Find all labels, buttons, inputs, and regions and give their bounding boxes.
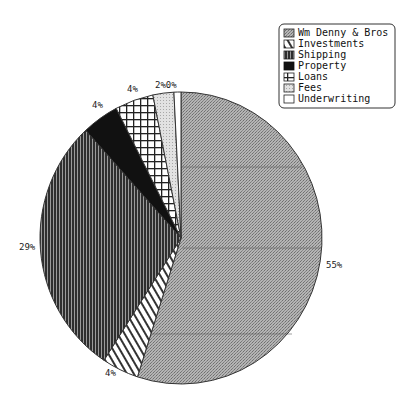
svg-text:Investments: Investments <box>298 38 364 49</box>
legend-item-property: Property <box>284 60 346 71</box>
legend-item-loans: Loans <box>284 71 328 82</box>
label-property: 4% <box>92 100 103 110</box>
legend-swatch <box>284 62 294 70</box>
legend-swatch <box>284 73 294 81</box>
svg-text:Loans: Loans <box>298 71 328 82</box>
label-investments: 4% <box>105 368 116 378</box>
svg-text:Underwriting: Underwriting <box>298 93 370 104</box>
legend-item-wm-denny: Wm Denny & Bros <box>284 27 388 38</box>
pie-chart: 55% 4% 29% 4% 4% 2%0% Wm Denny & Bros In… <box>0 0 414 398</box>
svg-text:Shipping: Shipping <box>298 49 346 60</box>
legend-swatch <box>284 51 294 59</box>
label-loans: 4% <box>127 84 138 94</box>
legend: Wm Denny & Bros Investments Shipping Pro… <box>279 24 395 108</box>
legend-swatch <box>284 95 294 103</box>
legend-swatch <box>284 40 294 48</box>
svg-text:Property: Property <box>298 60 346 71</box>
label-fees-underwriting: 2%0% <box>155 80 177 90</box>
label-wm-denny: 55% <box>326 260 343 270</box>
svg-text:Fees: Fees <box>298 82 322 93</box>
legend-swatch <box>284 29 294 37</box>
svg-text:Wm Denny & Bros: Wm Denny & Bros <box>298 27 388 38</box>
label-shipping: 29% <box>19 242 36 252</box>
legend-item-shipping: Shipping <box>284 49 346 60</box>
pie-slices <box>40 92 322 384</box>
legend-item-fees: Fees <box>284 82 322 93</box>
legend-swatch <box>284 84 294 92</box>
